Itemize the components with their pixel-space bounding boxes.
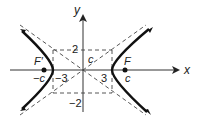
hyperbola-diagram: y x 2 −2 −3 3 c F′ −c F c bbox=[0, 0, 199, 121]
y-axis-label: y bbox=[73, 3, 81, 17]
y-top-label: 2 bbox=[72, 43, 78, 55]
c-box-label: c bbox=[88, 53, 94, 65]
y-bottom-label: −2 bbox=[69, 97, 82, 109]
focus-left-label: F′ bbox=[34, 55, 44, 67]
x-right-label: 3 bbox=[101, 72, 107, 84]
focus-left-coord: −c bbox=[33, 72, 45, 84]
x-left-label: −3 bbox=[55, 72, 68, 84]
arrow-icon bbox=[148, 27, 153, 33]
focus-right-label: F bbox=[124, 55, 132, 67]
focus-right-coord: c bbox=[125, 72, 131, 84]
x-axis-label: x bbox=[183, 63, 191, 77]
